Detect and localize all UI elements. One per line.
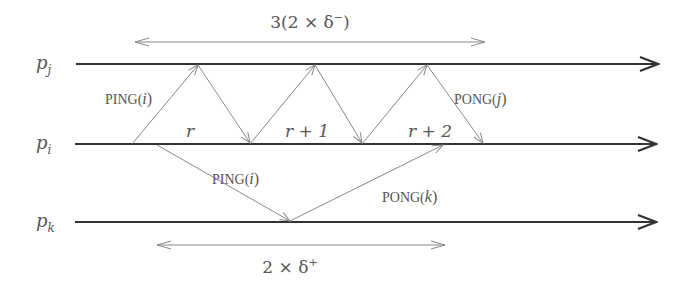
- timeline-pi: pi: [36, 132, 656, 157]
- round-labels: r r + 1 r + 2: [186, 121, 452, 141]
- round-label-r-plus-1: r + 1: [285, 121, 329, 141]
- message-diagram: 3(2 × δ−) pj pi pk r r + 1 r: [0, 0, 690, 288]
- bottom-interval: 2 × δ+: [157, 245, 445, 277]
- message-labels: PING(i) PONG(j) PING(i) PONG(k): [105, 90, 507, 206]
- process-label-pk: pk: [36, 210, 55, 235]
- timeline-pk: pk: [36, 210, 656, 235]
- ping-i-lower-label: PING(i): [212, 170, 259, 188]
- round-label-r-plus-2: r + 2: [408, 121, 452, 141]
- round-label-r: r: [186, 121, 195, 141]
- pong-j-label: PONG(j): [454, 90, 507, 108]
- pong-k-label: PONG(k): [382, 188, 437, 206]
- process-label-pi: pi: [36, 132, 52, 157]
- ping-pong-pi-pk: [157, 145, 443, 221]
- top-interval-label: 3(2 × δ−): [270, 11, 349, 32]
- top-interval: 3(2 × δ−): [135, 11, 485, 42]
- ping-i-upper-label: PING(i): [105, 90, 152, 108]
- message-arrow: [198, 65, 250, 143]
- message-arrow: [290, 145, 443, 221]
- process-label-pj: pj: [36, 52, 52, 77]
- timeline-pj: pj: [36, 52, 658, 77]
- bottom-interval-label: 2 × δ+: [262, 256, 317, 277]
